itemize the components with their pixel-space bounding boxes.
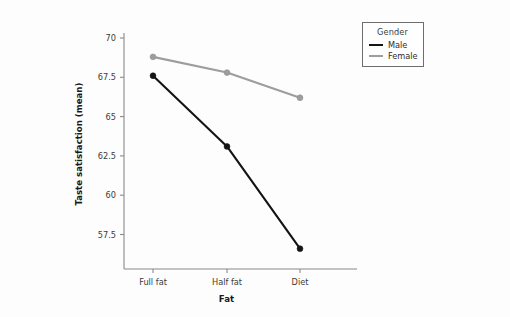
legend-swatch-female-icon bbox=[369, 55, 383, 57]
data-point-female-diet bbox=[297, 95, 303, 101]
legend-label: Female bbox=[388, 51, 418, 61]
data-point-female-full-fat bbox=[150, 54, 156, 60]
series-line-female bbox=[153, 57, 300, 98]
data-point-male-diet bbox=[297, 246, 303, 252]
legend-title: Gender bbox=[369, 27, 416, 37]
data-point-male-half-fat bbox=[224, 144, 230, 150]
y-tick-label: 65 bbox=[106, 112, 116, 122]
y-tick-label: 67.5 bbox=[98, 72, 116, 82]
data-point-male-full-fat bbox=[150, 73, 156, 79]
y-tick-label: 70 bbox=[106, 33, 116, 43]
y-axis-title: Taste satisfaction (mean) bbox=[74, 83, 84, 206]
plot-area: 57.56062.56567.570Full fatHalf fatDiet F… bbox=[0, 0, 510, 317]
y-tick-label: 57.5 bbox=[98, 230, 116, 240]
axis-labels-group: FatTaste satisfaction (mean) bbox=[74, 83, 234, 304]
series-group bbox=[150, 54, 303, 252]
legend: Gender MaleFemale bbox=[362, 22, 424, 67]
series-line-male bbox=[153, 76, 300, 249]
legend-item-male: Male bbox=[369, 40, 416, 50]
y-tick-label: 62.5 bbox=[98, 151, 116, 161]
x-tick-label: Diet bbox=[292, 277, 310, 287]
x-tick-label: Full fat bbox=[139, 277, 168, 287]
interaction-plot-figure: 57.56062.56567.570Full fatHalf fatDiet F… bbox=[0, 0, 510, 317]
y-tick-label: 60 bbox=[106, 190, 116, 200]
data-point-female-half-fat bbox=[224, 70, 230, 76]
legend-swatch-male-icon bbox=[369, 44, 383, 46]
legend-label: Male bbox=[388, 40, 407, 50]
x-tick-label: Half fat bbox=[212, 277, 243, 287]
legend-entries: MaleFemale bbox=[369, 40, 416, 61]
x-axis-title: Fat bbox=[219, 294, 234, 304]
legend-item-female: Female bbox=[369, 51, 416, 61]
